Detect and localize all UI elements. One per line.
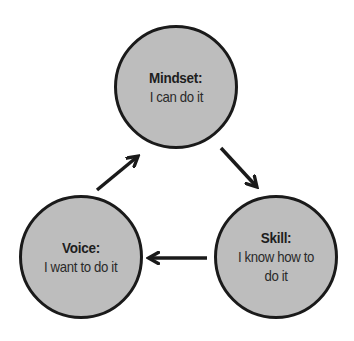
node-voice-title: Voice: — [62, 239, 100, 257]
node-skill-desc: I know how to do it — [232, 247, 320, 285]
node-voice-desc: I want to do it — [44, 257, 117, 276]
node-skill-title: Skill: — [261, 229, 292, 247]
node-voice: Voice: I want to do it — [19, 195, 143, 319]
node-mindset: Mindset: I can do it — [114, 25, 238, 149]
arrow-mindset-to-skill — [221, 148, 256, 186]
node-mindset-desc: I can do it — [149, 87, 202, 106]
cycle-diagram: Mindset: I can do it Skill: I know how t… — [0, 0, 354, 341]
node-skill: Skill: I know how to do it — [214, 195, 338, 319]
arrow-voice-to-mindset — [97, 157, 137, 190]
node-mindset-title: Mindset: — [149, 69, 202, 87]
